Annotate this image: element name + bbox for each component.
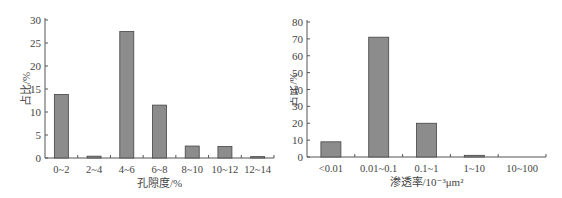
y-tick-label: 30 [30, 14, 42, 26]
x-tick-label: 12~14 [244, 164, 271, 175]
bar [153, 105, 167, 158]
bar [54, 95, 68, 158]
y-tick-label: 0 [36, 152, 42, 164]
y-tick-label: 70 [292, 33, 304, 45]
bar [218, 147, 232, 159]
x-tick-label: 10~100 [506, 163, 538, 174]
x-tick-label: 10~12 [212, 164, 239, 175]
y-axis-label: 占比/% [290, 72, 299, 106]
y-tick-label: 25 [30, 37, 42, 49]
y-tick-label: 5 [36, 129, 42, 141]
y-tick-label: 80 [292, 16, 304, 28]
x-tick-label: <0.01 [319, 163, 343, 174]
x-tick-label: 8~10 [181, 164, 202, 175]
bar [87, 156, 101, 158]
porosity-chart-svg: 0510152025300~22~44~66~88~1010~1212~14孔隙… [0, 0, 290, 198]
bar [321, 142, 341, 157]
x-tick-label: 6~8 [151, 164, 167, 175]
y-tick-label: 20 [292, 117, 304, 129]
y-tick-label: 10 [30, 106, 42, 118]
x-tick-label: 0.01~0.1 [360, 163, 397, 174]
bar [417, 123, 437, 157]
x-tick-label: 2~4 [86, 164, 103, 175]
y-axis-label: 占比/% [19, 72, 32, 106]
x-axis-label: 孔隙度/% [137, 176, 182, 189]
bar [464, 155, 484, 157]
permeability-chart-svg: 01020304050607080<0.010.01~0.10.1~11~101… [290, 0, 562, 198]
y-tick-label: 60 [292, 50, 304, 62]
bar [369, 37, 389, 157]
y-tick-label: 20 [30, 60, 42, 72]
x-axis-label: 渗透率/10⁻³μm² [390, 175, 465, 188]
y-tick-label: 10 [292, 134, 304, 146]
bar [251, 157, 265, 158]
bar [185, 146, 199, 158]
x-tick-label: 0~2 [53, 164, 69, 175]
porosity-chart: 0510152025300~22~44~66~88~1010~1212~14孔隙… [0, 0, 290, 198]
bar [120, 32, 134, 159]
y-tick-label: 0 [298, 151, 304, 163]
x-tick-label: 4~6 [119, 164, 135, 175]
permeability-chart: 01020304050607080<0.010.01~0.10.1~11~101… [290, 0, 562, 198]
x-tick-label: 1~10 [464, 163, 485, 174]
x-tick-label: 0.1~1 [414, 163, 438, 174]
